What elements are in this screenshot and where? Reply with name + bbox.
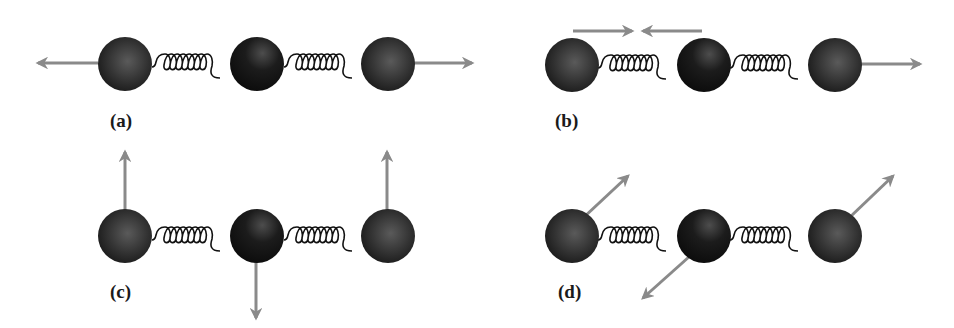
- panel-a: [38, 37, 472, 91]
- arrow-up-right-icon: [849, 176, 893, 218]
- spring-icon: [284, 227, 370, 251]
- spring-icon: [730, 55, 816, 79]
- atom-left: [98, 209, 152, 263]
- atom-center: [677, 209, 731, 263]
- spring-icon: [598, 55, 684, 79]
- spring-icon: [730, 227, 816, 251]
- atom-right: [361, 209, 415, 263]
- atom-center: [230, 209, 284, 263]
- panel-label-d: (d): [558, 281, 581, 303]
- panel-label-a: (a): [110, 110, 132, 132]
- spring-icon: [152, 227, 238, 251]
- atom-left: [545, 38, 599, 92]
- arrow-up-right-icon: [583, 176, 628, 218]
- atom-left: [98, 37, 152, 91]
- panel-label-b: (b): [555, 110, 578, 132]
- atom-center: [677, 38, 731, 92]
- atom-left: [545, 209, 599, 263]
- atom-center: [230, 37, 284, 91]
- molecule-vibration-diagram: [0, 0, 954, 328]
- panel-b: [545, 31, 920, 92]
- panel-c: [98, 152, 415, 318]
- arrow-down-left-icon: [643, 256, 690, 298]
- atom-right: [808, 209, 862, 263]
- atom-right: [361, 37, 415, 91]
- spring-icon: [598, 227, 684, 251]
- spring-icon: [152, 54, 238, 78]
- panel-d: [545, 176, 893, 298]
- spring-icon: [284, 54, 370, 78]
- atom-right: [808, 38, 862, 92]
- panel-label-c: (c): [110, 281, 131, 303]
